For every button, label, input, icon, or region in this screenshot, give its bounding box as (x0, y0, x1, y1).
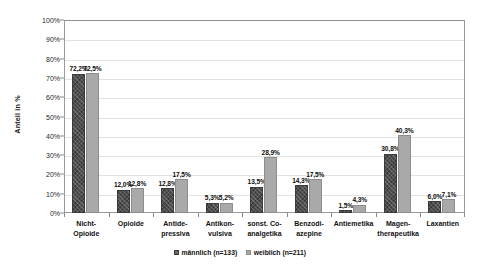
bar-value-label: 30,8% (381, 145, 399, 152)
legend-label-female: weiblich (n=211) (254, 249, 306, 256)
bar-value-label: 12,8% (128, 180, 146, 187)
x-axis-tick-mark (242, 213, 243, 217)
bar-group: 1,5%4,3% (331, 20, 376, 213)
bar-female (86, 73, 99, 213)
legend-swatch-male-icon (174, 250, 179, 255)
x-axis-tick-mark (331, 213, 332, 217)
bar-female (175, 179, 188, 213)
bar-male (428, 201, 441, 213)
bar-value-label: 17,5% (306, 171, 324, 178)
x-axis-label-line: therapeutika (366, 229, 430, 239)
y-axis-tick-label: 0% (0, 210, 60, 217)
bar-value-label: 72,5% (83, 65, 101, 72)
bar-chart: Anteil in % 0%10%20%30%40%50%60%70%80%90… (0, 0, 480, 271)
bar-male (161, 188, 174, 213)
x-axis-tick-mark (153, 213, 154, 217)
y-axis-tick-label: 80% (0, 55, 60, 62)
bar-value-label: 17,5% (173, 171, 191, 178)
bar-male (206, 203, 219, 213)
y-axis-tick-label: 10% (0, 190, 60, 197)
x-axis-tick-mark (109, 213, 110, 217)
bar-group: 72,2%72,5% (64, 20, 109, 213)
x-axis-label-line: Opioide (54, 229, 118, 239)
bar-group: 14,3%17,5% (287, 20, 332, 213)
legend-item-male: männlich (n=133) (174, 249, 237, 256)
bar-group: 13,5%28,9% (242, 20, 287, 213)
x-axis-label-line: Laxantien (411, 219, 475, 229)
bar-male (72, 74, 85, 213)
bar-male (339, 210, 352, 213)
x-axis-tick-mark (64, 213, 65, 217)
y-axis-tick-label: 90% (0, 36, 60, 43)
y-axis-tick-label: 40% (0, 132, 60, 139)
bar-male (384, 154, 397, 213)
bar-female (309, 179, 322, 213)
x-axis-tick-mark (198, 213, 199, 217)
bar-value-label: 13,5% (248, 178, 266, 185)
legend-swatch-female-icon (246, 250, 251, 255)
bar-value-label: 6,0% (428, 193, 443, 200)
chart-legend: männlich (n=133) weiblich (n=211) (0, 249, 480, 256)
x-axis-category-label: Laxantien (411, 219, 475, 229)
x-axis-tick-mark (420, 213, 421, 217)
bars-layer: 72,2%72,5%12,0%12,8%12,8%17,5%5,3%5,2%13… (64, 20, 465, 213)
bar-female (398, 135, 411, 213)
bar-value-label: 1,5% (339, 202, 354, 209)
y-axis-tick-label: 70% (0, 74, 60, 81)
bar-value-label: 40,3% (395, 127, 413, 134)
bar-value-label: 28,9% (262, 149, 280, 156)
x-axis-label-line: azepine (277, 229, 341, 239)
y-axis-tick-label: 100% (0, 17, 60, 24)
bar-value-label: 14,3% (292, 177, 310, 184)
y-axis-tick-label: 60% (0, 94, 60, 101)
bar-group: 12,8%17,5% (153, 20, 198, 213)
bar-group: 12,0%12,8% (109, 20, 154, 213)
y-axis-tick-label: 30% (0, 152, 60, 159)
bar-female (353, 205, 366, 213)
y-axis-tick-label: 50% (0, 113, 60, 120)
bar-group: 6,0%7,1% (420, 20, 465, 213)
bar-value-label: 5,3% (205, 194, 220, 201)
x-axis-tick-mark (464, 213, 465, 217)
x-axis-tick-mark (287, 213, 288, 217)
bar-male (117, 190, 130, 213)
bar-value-label: 5,2% (219, 194, 234, 201)
bar-female (220, 203, 233, 213)
bar-female (442, 199, 455, 213)
bar-value-label: 12,8% (159, 180, 177, 187)
y-axis-tick-label: 20% (0, 171, 60, 178)
bar-female (264, 157, 277, 213)
bar-female (131, 188, 144, 213)
bar-value-label: 4,3% (353, 196, 368, 203)
bar-male (295, 185, 308, 213)
x-axis-tick-mark (376, 213, 377, 217)
bar-group: 5,3%5,2% (198, 20, 243, 213)
bar-group: 30,8%40,3% (376, 20, 421, 213)
legend-label-male: männlich (n=133) (181, 249, 237, 256)
bar-male (250, 187, 263, 213)
legend-item-female: weiblich (n=211) (246, 249, 306, 256)
bar-value-label: 7,1% (442, 191, 457, 198)
